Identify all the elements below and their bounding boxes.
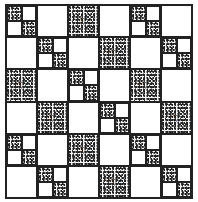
speckled-patch [177,182,192,197]
speckled-square: ▽ [99,166,130,198]
plain-patch [7,21,22,36]
speckled-square: ▽ [6,69,37,101]
plain-square [99,69,130,101]
plain-square [99,134,130,166]
speckled-patch [162,38,177,53]
speckled-patch [7,6,22,21]
plain-patch [146,6,161,21]
plain-patch [100,118,115,133]
speckled-patch [69,70,84,85]
speckled-patch [100,103,115,118]
speckled-patch [131,135,146,150]
speckled-patch [38,167,53,182]
triangle-icon: ▽ [80,145,87,154]
plain-patch [69,85,84,100]
plain-patch [38,53,53,68]
plain-patch [177,38,192,53]
speckled-patch [131,6,146,21]
speckled-patch [22,21,37,36]
four-patch-square [37,166,68,198]
plain-patch [84,70,99,85]
plain-square [6,166,37,198]
plain-patch [162,182,177,197]
triangle-icon: ▽ [173,113,180,122]
plain-square [130,37,161,69]
four-patch-square [130,5,161,37]
plain-square [161,5,192,37]
speckled-patch [7,135,22,150]
plain-square [6,37,37,69]
plain-patch [162,53,177,68]
speckled-patch [115,118,130,133]
speckled-square: ▽ [99,37,130,69]
four-patch-square [6,134,37,166]
plain-patch [38,182,53,197]
speckled-square: ▽ [68,5,99,37]
speckled-patch [162,167,177,182]
plain-square [37,5,68,37]
plain-square [37,69,68,101]
speckled-patch [146,21,161,36]
triangle-icon: ▽ [80,17,87,26]
plain-square [6,102,37,134]
plain-patch [22,135,37,150]
plain-square [68,166,99,198]
speckled-patch [53,182,68,197]
speckled-square: ▽ [37,102,68,134]
plain-patch [131,21,146,36]
speckled-patch [84,85,99,100]
plain-patch [7,150,22,165]
triangle-icon: ▽ [18,81,25,90]
plain-patch [177,167,192,182]
speckled-patch [146,150,161,165]
speckled-square: ▽ [161,102,192,134]
four-patch-square [6,5,37,37]
triangle-icon: ▽ [49,113,56,122]
speckled-patch [22,150,37,165]
plain-square [68,37,99,69]
plain-square [161,134,192,166]
plain-square [37,134,68,166]
four-patch-square [99,102,130,134]
quilt-grid: ▽▽▽▽▽▽▽▽ [5,4,193,199]
four-patch-square [130,134,161,166]
triangle-icon: ▽ [111,177,118,186]
speckled-square: ▽ [130,69,161,101]
plain-patch [22,6,37,21]
four-patch-square [68,69,99,101]
speckled-patch [38,38,53,53]
triangle-icon: ▽ [142,81,149,90]
plain-square [161,69,192,101]
four-patch-square [161,166,192,198]
plain-patch [146,135,161,150]
plain-patch [131,150,146,165]
four-patch-square [161,37,192,69]
plain-square [130,102,161,134]
plain-square [130,166,161,198]
plain-square [68,102,99,134]
four-patch-square [37,37,68,69]
speckled-square: ▽ [68,134,99,166]
speckled-patch [53,53,68,68]
plain-patch [53,38,68,53]
plain-patch [115,103,130,118]
triangle-icon: ▽ [111,49,118,58]
speckled-patch [177,53,192,68]
plain-square [99,5,130,37]
plain-patch [53,167,68,182]
